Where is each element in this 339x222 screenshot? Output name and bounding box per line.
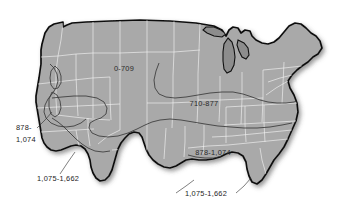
callout-1075-1662-south-label: 1,075-1,662 (185, 189, 227, 198)
zone-label-0-709: 0-709 (114, 64, 134, 73)
callout-1075-1662-west-label: 1,075-1,662 (37, 174, 79, 183)
leader-line-1075-1662-south-right (236, 178, 251, 193)
map-land-group (36, 20, 322, 184)
us-coastline-outline (36, 20, 322, 184)
zone-label-878-1074: 878-1,074 (195, 148, 231, 157)
us-zone-map-figure: 0-709 710-877 878-1,074 878- 1,074 1,075… (0, 0, 339, 222)
zone-label-710-877: 710-877 (190, 99, 219, 108)
map-canvas: 0-709 710-877 878-1,074 878- 1,074 1,075… (0, 0, 339, 222)
leader-line-1075-1662-west (60, 152, 75, 174)
callout-878-1074-line2: 1,074 (16, 135, 36, 144)
callout-878-1074-line1: 878- (16, 123, 32, 132)
